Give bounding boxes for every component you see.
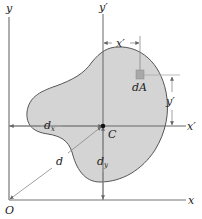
- y-axis-label: y: [5, 2, 13, 15]
- d-label: d: [56, 155, 63, 168]
- element-label: dA: [132, 81, 147, 94]
- y-prime-axis-label: y′: [98, 1, 108, 14]
- d-vector-lower: [10, 168, 52, 199]
- centroid-point: [101, 124, 106, 129]
- x-axis-label: x: [188, 194, 195, 207]
- origin-label: O: [5, 204, 14, 217]
- x-prime-axis-label: x′: [187, 120, 196, 133]
- centroid-label: C: [108, 128, 117, 141]
- y-prime-dimension-label: y′: [165, 95, 175, 108]
- parallel-axis-diagram: y x O y′ x′ C dA x′ y′ dx dy d: [0, 0, 202, 219]
- x-prime-dimension-label: x′: [116, 37, 125, 50]
- area-element-dA: [136, 70, 144, 79]
